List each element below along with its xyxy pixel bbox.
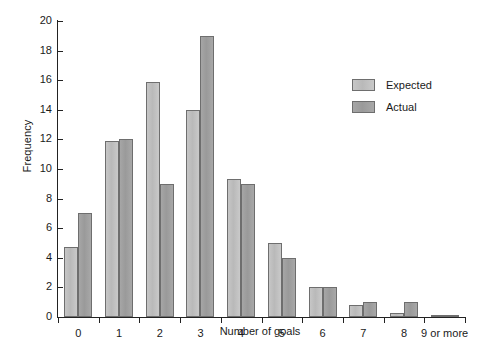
legend-label-actual: Actual <box>386 101 417 113</box>
bar-expected-5 <box>268 243 282 317</box>
legend-item-expected: Expected <box>352 76 432 94</box>
y-tick-label: 20 <box>26 15 52 26</box>
y-tick-label: 2 <box>26 281 52 292</box>
x-tick <box>139 318 140 323</box>
x-tick <box>302 318 303 323</box>
bar-expected-0 <box>64 247 78 317</box>
y-tick-label: 16 <box>26 74 52 85</box>
bar-actual-8 <box>404 302 418 317</box>
bar-actual-0 <box>78 213 92 317</box>
x-axis-label: Number of goals <box>55 325 465 337</box>
bar-expected-1 <box>105 141 119 317</box>
x-tick <box>384 318 385 323</box>
y-tick-label: 8 <box>26 193 52 204</box>
x-tick <box>99 318 100 323</box>
legend-swatch-actual-icon <box>352 101 375 113</box>
bar-actual-1 <box>119 139 133 317</box>
bar-expected-9-or-more <box>431 315 445 317</box>
bar-actual-3 <box>200 36 214 317</box>
x-tick <box>424 318 425 323</box>
bar-actual-5 <box>282 258 296 317</box>
y-tick-label: 18 <box>26 45 52 56</box>
x-tick <box>221 318 222 323</box>
bar-actual-6 <box>323 287 337 317</box>
plot-area <box>58 21 465 317</box>
y-tick-label: 14 <box>26 104 52 115</box>
legend-item-actual: Actual <box>352 98 432 116</box>
bar-actual-2 <box>160 184 174 317</box>
bar-expected-3 <box>186 110 200 317</box>
y-tick-label: 12 <box>26 133 52 144</box>
x-tick <box>58 318 59 323</box>
legend: Expected Actual <box>352 76 432 120</box>
bar-expected-4 <box>227 179 241 317</box>
y-tick-label: 10 <box>26 163 52 174</box>
bar-expected-8 <box>390 313 404 317</box>
bar-expected-7 <box>349 305 363 317</box>
y-tick-label: 4 <box>26 252 52 263</box>
x-tick <box>262 318 263 323</box>
legend-swatch-expected-icon <box>352 79 375 91</box>
bar-actual-4 <box>241 184 255 317</box>
bar-actual-7 <box>363 302 377 317</box>
x-tick <box>180 318 181 323</box>
x-tick <box>465 318 466 323</box>
bar-expected-6 <box>309 287 323 317</box>
y-tick-label: 6 <box>26 222 52 233</box>
bar-actual-9-or-more <box>445 315 459 317</box>
bar-chart: Frequency 02468101214161820 0123456789 o… <box>0 0 483 347</box>
legend-label-expected: Expected <box>386 79 432 91</box>
bar-expected-2 <box>146 82 160 317</box>
y-tick-label: 0 <box>26 311 52 322</box>
x-tick <box>343 318 344 323</box>
